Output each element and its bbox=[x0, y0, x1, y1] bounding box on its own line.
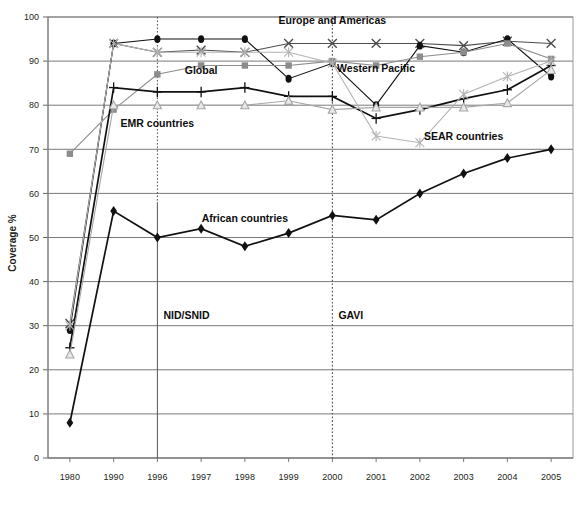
xtick-label-1996: 1996 bbox=[147, 472, 167, 482]
y-axis-title: Coverage % bbox=[7, 214, 18, 271]
data-point-marker bbox=[66, 418, 73, 428]
data-point-marker bbox=[372, 113, 381, 123]
data-point-marker bbox=[460, 169, 467, 179]
data-point-marker bbox=[373, 215, 380, 225]
coverage-line-chart: 0102030405060708090100Coverage %19801990… bbox=[0, 0, 585, 507]
europe-and-americas-label: Europe and Americas bbox=[279, 14, 387, 26]
data-point-marker bbox=[154, 71, 160, 77]
ytick-label-30: 30 bbox=[29, 321, 39, 331]
xtick-label-1999: 1999 bbox=[279, 472, 299, 482]
ytick-label-40: 40 bbox=[29, 277, 39, 287]
data-point-marker bbox=[285, 62, 291, 68]
series-line bbox=[70, 39, 551, 330]
data-point-marker bbox=[417, 53, 423, 59]
series-line bbox=[70, 149, 551, 422]
data-point-marker bbox=[459, 89, 468, 99]
ytick-label-50: 50 bbox=[29, 233, 39, 243]
gavi-event-label: GAVI bbox=[338, 309, 363, 321]
ytick-label-60: 60 bbox=[29, 189, 39, 199]
xtick-label-2001: 2001 bbox=[366, 472, 386, 482]
ytick-label-80: 80 bbox=[29, 100, 39, 110]
data-point-marker bbox=[417, 42, 423, 50]
sear-countries-label: SEAR countries bbox=[424, 130, 504, 142]
data-point-marker bbox=[154, 35, 160, 43]
xtick-label-1997: 1997 bbox=[191, 472, 211, 482]
african-countries-label: African countries bbox=[202, 212, 289, 224]
western-pacific-label: Western Pacific bbox=[337, 62, 415, 74]
data-point-marker bbox=[503, 99, 511, 107]
nid-snid-event-label: NID/SNID bbox=[163, 309, 210, 321]
data-point-marker bbox=[242, 62, 248, 68]
data-point-marker bbox=[240, 82, 249, 92]
data-point-marker bbox=[67, 151, 73, 157]
ytick-label-10: 10 bbox=[29, 409, 39, 419]
xtick-label-1990: 1990 bbox=[104, 472, 124, 482]
xtick-label-2004: 2004 bbox=[497, 472, 517, 482]
data-point-marker bbox=[503, 72, 512, 82]
data-point-marker bbox=[504, 153, 511, 163]
data-point-marker bbox=[242, 35, 248, 43]
global-label: Global bbox=[185, 64, 218, 76]
series-global bbox=[65, 60, 555, 353]
data-point-marker bbox=[197, 87, 206, 97]
ytick-label-0: 0 bbox=[34, 453, 39, 463]
data-point-marker bbox=[503, 85, 512, 95]
xtick-label-2005: 2005 bbox=[541, 472, 561, 482]
data-point-marker bbox=[328, 91, 337, 101]
data-point-marker bbox=[198, 224, 205, 234]
data-point-marker bbox=[285, 228, 292, 238]
series-sear-countries bbox=[66, 66, 555, 358]
ytick-label-70: 70 bbox=[29, 145, 39, 155]
data-point-marker bbox=[241, 241, 248, 251]
xtick-label-2003: 2003 bbox=[454, 472, 474, 482]
data-point-marker bbox=[66, 350, 74, 358]
data-point-marker bbox=[329, 210, 336, 220]
series-line bbox=[70, 43, 551, 325]
data-point-marker bbox=[109, 82, 118, 92]
data-point-marker bbox=[285, 96, 293, 104]
xtick-label-2002: 2002 bbox=[410, 472, 430, 482]
data-point-marker bbox=[286, 75, 292, 83]
series-african-countries bbox=[66, 144, 554, 427]
series-sear-light-cross bbox=[65, 38, 555, 330]
xtick-label-1980: 1980 bbox=[60, 472, 80, 482]
series-europe-and-americas bbox=[65, 37, 555, 328]
data-point-marker bbox=[153, 87, 162, 97]
data-point-marker bbox=[504, 40, 510, 46]
series-western-pacific bbox=[67, 35, 554, 334]
ytick-label-100: 100 bbox=[24, 12, 39, 22]
ytick-label-20: 20 bbox=[29, 365, 39, 375]
series-line bbox=[70, 66, 551, 348]
chart-canvas: 0102030405060708090100Coverage %19801990… bbox=[0, 0, 585, 507]
data-point-marker bbox=[198, 35, 204, 43]
data-point-marker bbox=[154, 233, 161, 243]
ytick-label-90: 90 bbox=[29, 56, 39, 66]
data-point-marker bbox=[548, 144, 555, 154]
series-line bbox=[70, 70, 551, 354]
data-point-marker bbox=[460, 49, 466, 55]
xtick-label-2000: 2000 bbox=[322, 472, 342, 482]
emr-countries-label: EMR countries bbox=[121, 117, 195, 129]
xtick-label-1998: 1998 bbox=[235, 472, 255, 482]
data-point-marker bbox=[110, 206, 117, 216]
data-point-marker bbox=[416, 188, 423, 198]
